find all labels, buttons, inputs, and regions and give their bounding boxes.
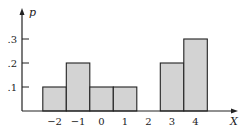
y-axis-label: p <box>29 6 36 19</box>
x-tick-label: −2 <box>47 116 62 127</box>
x-tick-label: −1 <box>71 116 86 127</box>
y-axis-arrow-icon <box>20 8 25 15</box>
x-axis-arrow-icon <box>231 109 238 114</box>
y-tick-label: .2 <box>7 58 17 69</box>
y-tick-label: .3 <box>7 34 17 45</box>
x-tick-label: 4 <box>192 116 198 127</box>
probability-histogram: .1.2.3 −2−101234 p X <box>0 0 247 131</box>
x-tick-label: 2 <box>145 116 151 127</box>
x-tick-label: 0 <box>98 116 104 127</box>
y-tick-label: .1 <box>7 82 17 93</box>
bar-1 <box>113 87 137 111</box>
bars-group <box>43 39 208 111</box>
x-axis-label: X <box>229 115 239 128</box>
x-tick-labels-group: −2−101234 <box>47 116 199 127</box>
bar--1 <box>66 63 90 111</box>
bar-0 <box>90 87 114 111</box>
x-tick-label: 3 <box>169 116 175 127</box>
x-tick-label: 1 <box>122 116 128 127</box>
bar-3 <box>160 63 184 111</box>
bar--2 <box>43 87 67 111</box>
y-ticks-group: .1.2.3 <box>7 34 29 93</box>
bar-4 <box>184 39 208 111</box>
